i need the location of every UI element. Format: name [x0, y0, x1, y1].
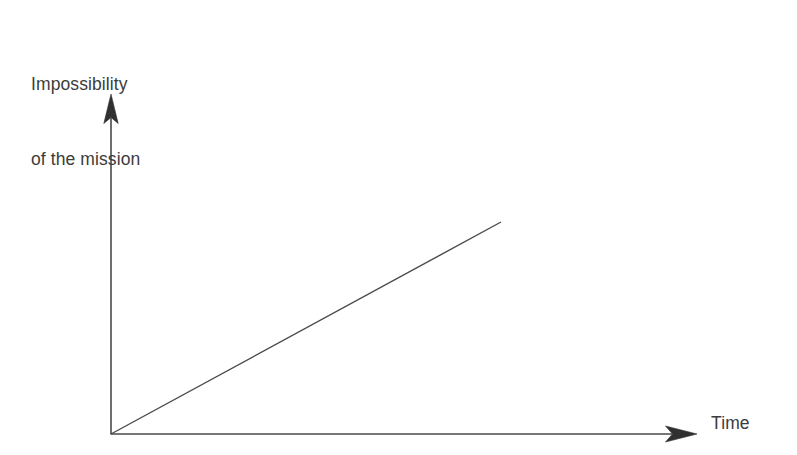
y-axis-label-line-1: Impossibility	[31, 72, 140, 97]
trend-line-series-impossibility	[111, 222, 501, 434]
chart-figure: Impossibility of the mission Time	[0, 0, 797, 455]
x-axis-label: Time	[711, 411, 750, 436]
y-axis-label-line-2: of the mission	[31, 147, 140, 172]
y-axis-label: Impossibility of the mission	[31, 22, 140, 222]
